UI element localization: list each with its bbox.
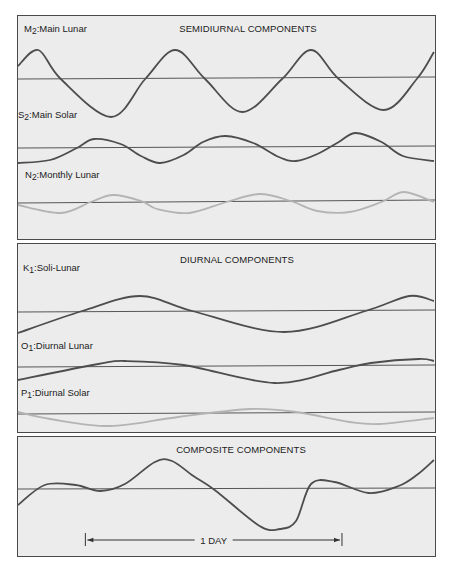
diurnal-panel: DIURNAL COMPONENTS K1:Soli-Lunar O1:Diur…	[18, 244, 436, 433]
day-marker-label: 1 DAY	[200, 535, 227, 546]
semidiurnal-title: SEMIDIURNAL COMPONENTS	[179, 23, 317, 34]
composite-panel: COMPOSITE COMPONENTS 1 DAY	[18, 437, 436, 557]
diurnal-panel-frame	[18, 244, 436, 433]
tidal-components-figure: SEMIDIURNAL COMPONENTS M2:Main Lunar S2:…	[0, 0, 455, 572]
semidiurnal-panel: SEMIDIURNAL COMPONENTS M2:Main Lunar S2:…	[18, 16, 436, 240]
diurnal-title: DIURNAL COMPONENTS	[180, 254, 294, 265]
composite-title: COMPOSITE COMPONENTS	[176, 444, 306, 455]
